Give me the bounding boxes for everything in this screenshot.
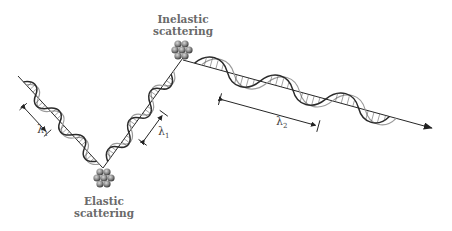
lambda2-label: λ2 [276, 115, 287, 130]
inelastic-scattering-label: Inelastic scattering [152, 13, 214, 37]
lambda-symbol: λ [158, 125, 165, 138]
inelastic-nucleus-icon [171, 40, 192, 59]
lambda1-right-label: λ1 [158, 125, 169, 140]
lambda1-left-label: λ1 [37, 123, 48, 138]
scattering-diagram [0, 0, 452, 231]
lambda-subscript: 2 [283, 122, 287, 130]
lambda-subscript: 1 [44, 130, 48, 138]
elastic-nucleus-icon [93, 168, 114, 187]
lambda-symbol: λ [37, 123, 44, 136]
elastic-scattered-wave [97, 53, 201, 181]
lambda-subscript: 1 [165, 132, 169, 140]
inelastic-scattered-wave [174, 50, 435, 161]
lambda2-dimension [218, 93, 320, 131]
inelastic-label-line2: scattering [152, 25, 214, 37]
elastic-label-line2: scattering [73, 207, 135, 219]
incoming-wave [2, 71, 108, 183]
elastic-label-line1: Elastic [73, 195, 135, 207]
elastic-scattering-label: Elastic scattering [73, 195, 135, 219]
lambda-symbol: λ [276, 115, 283, 128]
inelastic-label-line1: Inelastic [152, 13, 214, 25]
